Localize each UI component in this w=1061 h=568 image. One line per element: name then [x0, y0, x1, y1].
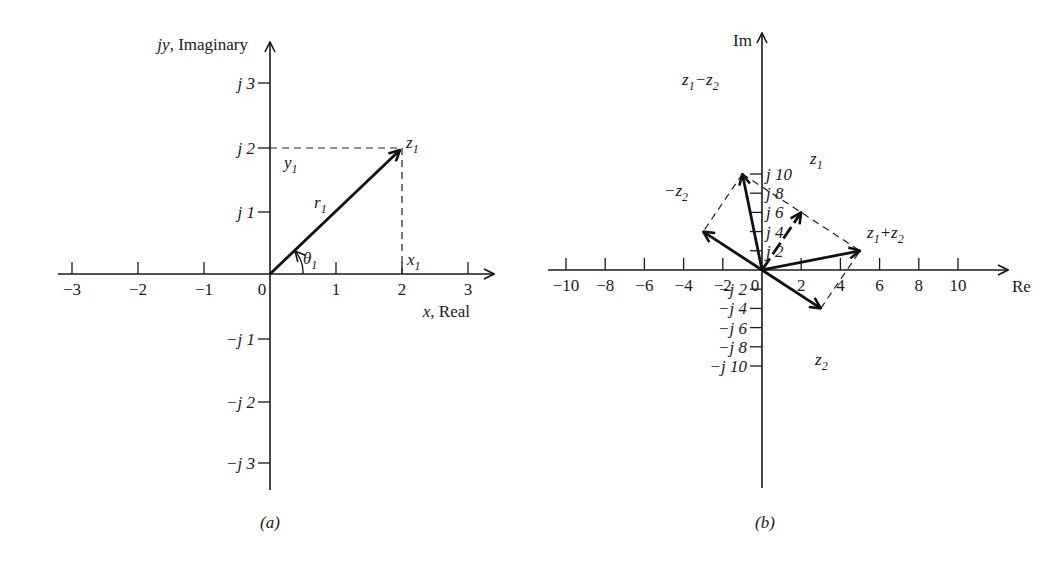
figure-a-plot: −3−2−10123 j 1j 2j 3−j 1−j 2−j 3 jy, Ima…: [58, 35, 494, 532]
x-axis-label: x, Real: [422, 302, 470, 321]
y-tick-label: −j 4: [718, 299, 747, 318]
y-tick-label: −j 6: [718, 319, 747, 338]
y-tick-label: j 3: [236, 74, 255, 93]
x-tick-label: 0: [258, 280, 267, 299]
y-tick-label: −j 8: [718, 338, 747, 357]
im-axis-label: Im: [733, 31, 752, 50]
angle-arc-icon: [295, 251, 303, 274]
z1-label: z1: [809, 149, 823, 172]
x-tick-label: 4: [836, 276, 845, 295]
x-tick-label: −8: [596, 276, 614, 295]
caption-a: (a): [260, 513, 280, 532]
z1-minus-z2-label: z1−z2: [681, 70, 719, 93]
x-tick-label: −2: [129, 280, 147, 299]
z2-label: z2: [814, 350, 828, 373]
y-tick-label: −j 2: [226, 393, 255, 412]
vector-z2: [762, 270, 821, 308]
x-tick-label: −6: [635, 276, 653, 295]
y1-label: y1: [282, 153, 298, 176]
x-tick-label: −4: [675, 276, 694, 295]
y-tick-label: j 4: [764, 223, 784, 242]
neg-z2-label: −z2: [664, 181, 688, 204]
x-tick-label: 3: [464, 280, 473, 299]
y-tick-label: j 8: [764, 184, 784, 203]
y-tick-label: j 2: [236, 139, 256, 158]
x-tick-label: −1: [195, 280, 213, 299]
vector-z1−z2: [742, 174, 762, 270]
x-tick-label: 10: [950, 276, 967, 295]
y-tick-label: −j 3: [226, 454, 255, 473]
complex-plane-figure: −3−2−10123 j 1j 2j 3−j 1−j 2−j 3 jy, Ima…: [0, 0, 1061, 568]
y-tick-label: j 1: [236, 203, 255, 222]
x1-label: x1: [406, 250, 421, 273]
theta1-label: θ1: [303, 249, 317, 272]
dash-diff-to-negz2: [703, 174, 742, 232]
y-axis-label: jy, Imaginary: [155, 35, 248, 54]
y-tick-label: −j 1: [226, 330, 255, 349]
x-tick-label: 8: [915, 276, 924, 295]
re-axis-label: Re: [1012, 277, 1031, 296]
x-tick-label: −3: [63, 280, 81, 299]
x-tick-label: 0: [751, 276, 760, 295]
r1-label: r1: [314, 193, 327, 216]
y-tick-label: j 6: [764, 203, 784, 222]
z1-plus-z2-label: z1+z2: [866, 223, 904, 246]
x-tick-label: 1: [332, 280, 341, 299]
y-tick-label: −j 10: [710, 357, 748, 376]
z1-label: z1: [405, 133, 419, 156]
x-tick-label: −10: [553, 276, 580, 295]
y-tick-label: j 10: [764, 165, 792, 184]
y-tick-label: −j 2: [718, 280, 747, 299]
caption-b: (b): [755, 513, 775, 532]
x-tick-label: 2: [398, 280, 407, 299]
x-tick-label: 6: [875, 276, 884, 295]
figure-b-plot: −10−8−6−4−20246810 j 2j 4j 6j 8j 10−j 2−…: [548, 31, 1031, 532]
